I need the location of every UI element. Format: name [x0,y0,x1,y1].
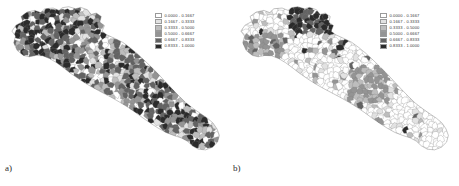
municipality-area [241,43,248,51]
municipality-area [443,131,449,138]
figure-two-panel-maps: 0.0000 - 0.16670.1667 - 0.33330.3333 - 0… [0,0,459,186]
legend-swatch [380,19,387,24]
municipality-area [293,38,300,45]
legend-swatch [155,31,162,36]
legend-swatch [155,13,162,18]
legend-swatch [155,44,162,49]
municipality-area [23,27,28,33]
legend-b: 0.0000 - 0.16670.1667 - 0.33330.3333 - 0… [380,13,419,50]
panel-b: 0.0000 - 0.16670.1667 - 0.33330.3333 - 0… [229,0,458,186]
municipality-area [383,112,390,118]
choropleth-map-b [229,0,458,168]
legend-swatch [155,19,162,24]
panel-a: 0.0000 - 0.16670.1667 - 0.33330.3333 - 0… [0,0,229,186]
legend-swatch [380,25,387,30]
panel-label-a: a) [5,163,12,173]
municipality-area [78,72,85,79]
municipality-area [253,52,259,60]
municipality-area [396,105,403,110]
municipality-area [289,7,294,15]
municipality-area [193,132,201,139]
panel-label-b: b) [233,163,241,173]
legend-a: 0.0000 - 0.16670.1667 - 0.33330.3333 - 0… [155,13,194,50]
choropleth-map-a [0,0,229,168]
municipality-area [336,44,344,50]
legend-swatch [155,38,162,43]
legend-row: 0.8333 - 1.0000 [155,43,194,49]
legend-swatch [380,31,387,36]
legend-row: 0.8333 - 1.0000 [380,43,419,49]
legend-swatch [380,13,387,18]
legend-swatch [155,25,162,30]
legend-label: 0.8333 - 1.0000 [390,43,420,49]
legend-swatch [380,44,387,49]
legend-label: 0.8333 - 1.0000 [165,43,195,49]
municipality-area [28,38,34,44]
legend-swatch [380,38,387,43]
